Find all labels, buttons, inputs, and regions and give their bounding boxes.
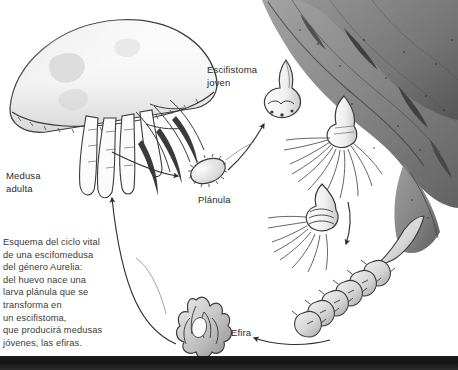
escifistoma-estrobilando-illustration (268, 184, 338, 272)
efira-illustration (177, 297, 232, 358)
escifistoma-joven-illustration (264, 60, 300, 118)
estrobila-illustration (292, 216, 424, 337)
arrow-estrobila-to-efira (254, 338, 330, 344)
figure-canvas: Medusa adulta Escifistoma joven Plánula … (0, 0, 458, 370)
caption-leader-line (136, 258, 166, 314)
seafloor-band (0, 356, 458, 370)
arrow-escifistoma-to-estrobila (346, 202, 350, 244)
medusa-adulta-illustration (10, 20, 217, 198)
arrow-planula-to-escifistoma (228, 124, 264, 170)
label-planula: Plánula (198, 194, 231, 207)
label-efira: Efira (231, 327, 251, 340)
label-escifistoma-joven: Escifistoma joven (207, 64, 257, 89)
algae-substrate (262, 0, 458, 253)
label-medusa-adulta: Medusa adulta (6, 170, 41, 195)
life-cycle-caption: Esquema del ciclo vital de una escifomed… (3, 236, 131, 349)
planula-illustration (187, 154, 229, 189)
